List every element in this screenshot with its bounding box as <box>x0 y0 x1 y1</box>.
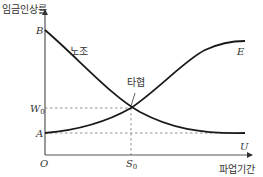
point-u-label: U <box>240 141 249 152</box>
point-a-label: A <box>35 128 43 139</box>
s0-label: S0 <box>126 158 137 171</box>
y-axis-label: 임금인상률 <box>2 3 47 15</box>
agreement-pointer <box>131 93 135 106</box>
union-curve-label: 노조 <box>70 46 88 57</box>
wage-strike-bargaining-diagram: 임금인상률 파업기간 O B A W0 S0 E U 노조 타협 <box>0 0 263 177</box>
agreement-label: 타협 <box>127 76 145 88</box>
origin-label: O <box>40 158 48 169</box>
w-subscript: 0 <box>40 108 44 116</box>
point-b-label: B <box>35 25 43 36</box>
point-e-label: E <box>236 46 245 57</box>
w0-label: W0 <box>30 103 45 116</box>
s-subscript: 0 <box>133 163 137 171</box>
x-axis-label: 파업기간 <box>219 163 255 175</box>
